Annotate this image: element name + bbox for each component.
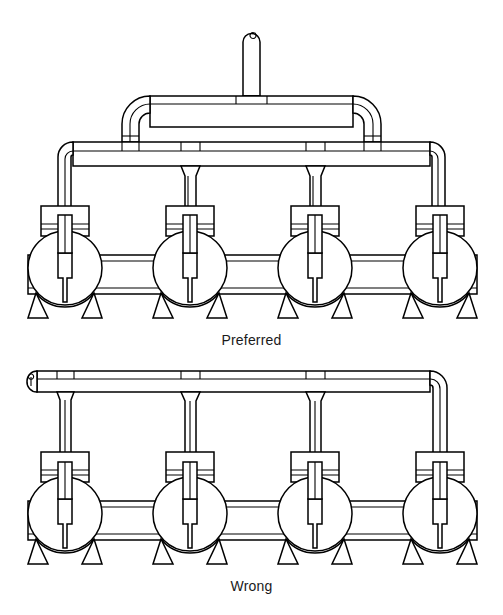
piping-diagram [0, 0, 503, 615]
panel-preferred [28, 33, 477, 319]
vertical-riser [236, 33, 267, 105]
pump-unit [153, 452, 227, 564]
header-left-enddrop [58, 142, 73, 215]
panel-wrong [27, 371, 477, 564]
pump-unit [28, 452, 102, 564]
pump-unit [403, 452, 477, 564]
pump-unit [403, 206, 477, 318]
figure-root: Preferred Wrong [0, 0, 503, 615]
discharge-header [37, 371, 430, 392]
pump-unit [278, 452, 352, 564]
pump-unit [153, 206, 227, 318]
upper-manifold [150, 96, 353, 127]
header-right-enddrop [430, 142, 445, 215]
pipe-cap [27, 371, 37, 392]
manifold-elbow-left [122, 96, 150, 142]
caption-preferred: Preferred [0, 332, 503, 348]
manifold-elbow-right [430, 371, 447, 462]
caption-wrong: Wrong [0, 578, 503, 594]
pump-unit [278, 206, 352, 318]
manifold-elbow-right [353, 96, 381, 142]
pump-unit [28, 206, 102, 318]
discharge-header [73, 142, 430, 166]
